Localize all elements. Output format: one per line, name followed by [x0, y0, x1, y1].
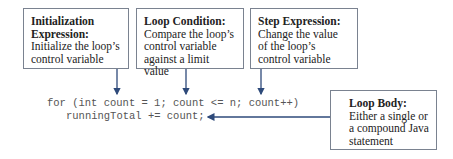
initialization-description: Initialize the loop’s control variable — [31, 40, 121, 65]
condition-box: Loop Condition: Compare the loop’s contr… — [136, 8, 244, 69]
body-box: Loop Body: Either a single or a compound… — [330, 90, 437, 150]
condition-description: Compare the loop’s control variable agai… — [144, 28, 236, 78]
step-box: Step Expression: Change the value of the… — [250, 8, 358, 69]
body-description: Either a single or a compound Java state… — [349, 110, 429, 148]
initialization-title: Initialization Expression: — [31, 15, 121, 40]
step-title: Step Expression: — [258, 15, 350, 28]
initialization-box: Initialization Expression: Initialize th… — [23, 8, 129, 69]
code-line-2: runningTotal += count; — [66, 110, 205, 122]
code-line-1: for (int count = 1; count <= n; count++) — [47, 97, 299, 109]
body-title: Loop Body: — [349, 97, 429, 110]
condition-title: Loop Condition: — [144, 15, 236, 28]
step-description: Change the value of the loop’s control v… — [258, 28, 350, 66]
